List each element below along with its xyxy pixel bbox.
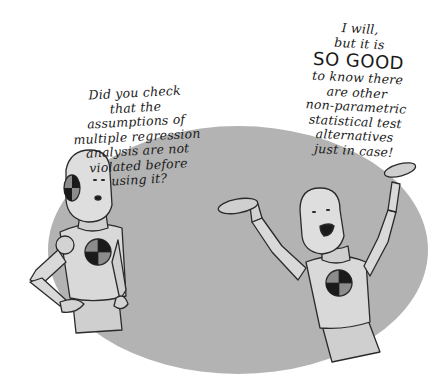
cartoon-illustration: Did you check that the assumptions of mu…: [0, 0, 435, 390]
left-dummy-speech: Did you check that the assumptions of mu…: [69, 83, 204, 191]
right-dummy-speech: I will, but it is SO GOOD to know there …: [279, 18, 435, 162]
